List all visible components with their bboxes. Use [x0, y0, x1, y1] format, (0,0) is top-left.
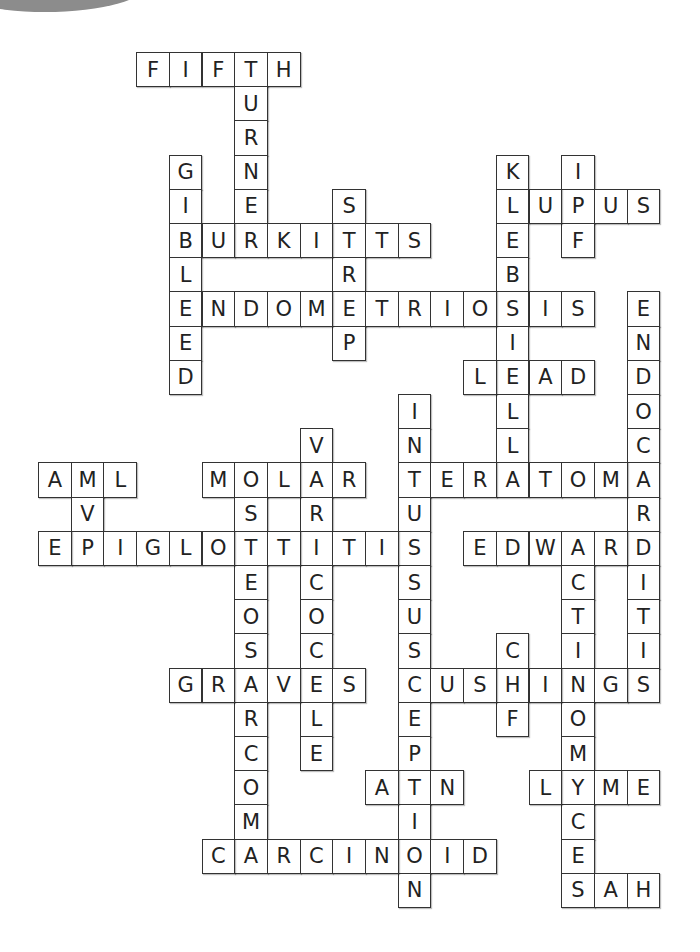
crossword-cell[interactable]: I	[300, 531, 334, 566]
crossword-cell[interactable]: N	[561, 668, 595, 703]
crossword-cell[interactable]: A	[234, 839, 268, 874]
crossword-cell[interactable]: G	[169, 155, 203, 190]
crossword-cell[interactable]: E	[38, 531, 72, 566]
crossword-cell[interactable]: O	[267, 291, 301, 326]
crossword-cell[interactable]: B	[496, 257, 530, 292]
crossword-cell[interactable]: C	[234, 736, 268, 771]
crossword-cell[interactable]: O	[234, 462, 268, 497]
crossword-cell[interactable]: L	[463, 360, 497, 395]
crossword-cell[interactable]: I	[169, 52, 203, 87]
crossword-cell[interactable]: I	[398, 394, 432, 429]
crossword-cell[interactable]: L	[103, 462, 137, 497]
crossword-cell[interactable]: M	[234, 804, 268, 839]
crossword-cell[interactable]: L	[300, 702, 334, 737]
crossword-cell[interactable]: G	[169, 668, 203, 703]
crossword-cell[interactable]: C	[496, 633, 530, 668]
crossword-cell[interactable]: L	[496, 428, 530, 463]
crossword-cell[interactable]: N	[398, 428, 432, 463]
crossword-cell[interactable]: M	[594, 770, 628, 805]
crossword-cell[interactable]: E	[627, 291, 661, 326]
crossword-cell[interactable]: O	[398, 839, 432, 874]
crossword-cell[interactable]: E	[300, 736, 334, 771]
crossword-cell[interactable]: O	[234, 599, 268, 634]
crossword-cell[interactable]: E	[234, 565, 268, 600]
crossword-cell[interactable]: G	[136, 531, 170, 566]
crossword-cell[interactable]: A	[496, 462, 530, 497]
crossword-cell[interactable]: A	[561, 531, 595, 566]
crossword-cell[interactable]: I	[496, 326, 530, 361]
crossword-cell[interactable]: A	[300, 462, 334, 497]
crossword-cell[interactable]: D	[169, 360, 203, 395]
crossword-cell[interactable]: V	[71, 497, 105, 532]
crossword-cell[interactable]: E	[561, 839, 595, 874]
crossword-cell[interactable]: R	[202, 668, 236, 703]
crossword-cell[interactable]: F	[202, 52, 236, 87]
crossword-cell[interactable]: P	[398, 736, 432, 771]
crossword-cell[interactable]: L	[169, 531, 203, 566]
crossword-cell[interactable]: O	[234, 770, 268, 805]
crossword-cell[interactable]: T	[398, 462, 432, 497]
crossword-cell[interactable]: R	[627, 497, 661, 532]
crossword-cell[interactable]: L	[529, 770, 563, 805]
crossword-cell[interactable]: S	[398, 565, 432, 600]
crossword-cell[interactable]: U	[398, 599, 432, 634]
crossword-cell[interactable]: S	[398, 531, 432, 566]
crossword-cell[interactable]: N	[398, 873, 432, 908]
crossword-cell[interactable]: I	[561, 633, 595, 668]
crossword-cell[interactable]: F	[561, 223, 595, 258]
crossword-cell[interactable]: E	[234, 189, 268, 224]
crossword-cell[interactable]: U	[529, 189, 563, 224]
crossword-cell[interactable]: S	[332, 189, 366, 224]
crossword-cell[interactable]: M	[594, 462, 628, 497]
crossword-cell[interactable]: I	[103, 531, 137, 566]
crossword-cell[interactable]: S	[627, 668, 661, 703]
crossword-cell[interactable]: U	[430, 668, 464, 703]
crossword-cell[interactable]: E	[169, 326, 203, 361]
crossword-cell[interactable]: R	[332, 257, 366, 292]
crossword-cell[interactable]: E	[627, 770, 661, 805]
crossword-cell[interactable]: U	[398, 497, 432, 532]
crossword-cell[interactable]: U	[594, 189, 628, 224]
crossword-cell[interactable]: I	[430, 839, 464, 874]
crossword-cell[interactable]: V	[300, 428, 334, 463]
crossword-cell[interactable]: I	[561, 155, 595, 190]
crossword-cell[interactable]: C	[300, 565, 334, 600]
crossword-cell[interactable]: E	[332, 291, 366, 326]
crossword-cell[interactable]: O	[561, 702, 595, 737]
crossword-cell[interactable]: I	[529, 291, 563, 326]
crossword-cell[interactable]: I	[332, 839, 366, 874]
crossword-cell[interactable]: R	[300, 497, 334, 532]
crossword-cell[interactable]: R	[234, 120, 268, 155]
crossword-cell[interactable]: R	[398, 291, 432, 326]
crossword-cell[interactable]: L	[496, 394, 530, 429]
crossword-cell[interactable]: M	[71, 462, 105, 497]
crossword-cell[interactable]: T	[561, 599, 595, 634]
crossword-cell[interactable]: R	[234, 702, 268, 737]
crossword-cell[interactable]: S	[234, 633, 268, 668]
crossword-cell[interactable]: L	[496, 189, 530, 224]
crossword-cell[interactable]: E	[463, 531, 497, 566]
crossword-cell[interactable]: K	[267, 223, 301, 258]
crossword-cell[interactable]: D	[627, 360, 661, 395]
crossword-cell[interactable]: O	[627, 394, 661, 429]
crossword-cell[interactable]: H	[627, 873, 661, 908]
crossword-cell[interactable]: N	[202, 291, 236, 326]
crossword-cell[interactable]: N	[234, 155, 268, 190]
crossword-cell[interactable]: A	[234, 668, 268, 703]
crossword-cell[interactable]: T	[365, 291, 399, 326]
crossword-cell[interactable]: N	[365, 839, 399, 874]
crossword-cell[interactable]: O	[463, 291, 497, 326]
crossword-cell[interactable]: K	[496, 155, 530, 190]
crossword-cell[interactable]: A	[365, 770, 399, 805]
crossword-cell[interactable]: I	[365, 531, 399, 566]
crossword-cell[interactable]: S	[561, 291, 595, 326]
crossword-cell[interactable]: S	[398, 223, 432, 258]
crossword-cell[interactable]: B	[169, 223, 203, 258]
crossword-cell[interactable]: C	[561, 804, 595, 839]
crossword-cell[interactable]: A	[627, 462, 661, 497]
crossword-cell[interactable]: G	[594, 668, 628, 703]
crossword-cell[interactable]: R	[234, 223, 268, 258]
crossword-cell[interactable]: H	[496, 668, 530, 703]
crossword-cell[interactable]: C	[627, 428, 661, 463]
crossword-cell[interactable]: C	[300, 633, 334, 668]
